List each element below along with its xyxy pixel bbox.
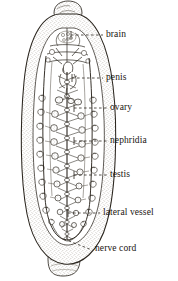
anatomical-figure: brain penis ovary nephridia testis later… [0, 0, 178, 281]
label-lateral-vessel: lateral vessel [103, 207, 154, 217]
label-brain: brain [106, 29, 126, 39]
label-nerve-cord: nerve cord [95, 243, 136, 253]
label-penis: penis [106, 72, 127, 82]
figure-drawing [0, 0, 178, 281]
label-ovary: ovary [110, 102, 132, 112]
label-nephridia: nephridia [110, 135, 147, 145]
label-testis: testis [110, 169, 130, 179]
